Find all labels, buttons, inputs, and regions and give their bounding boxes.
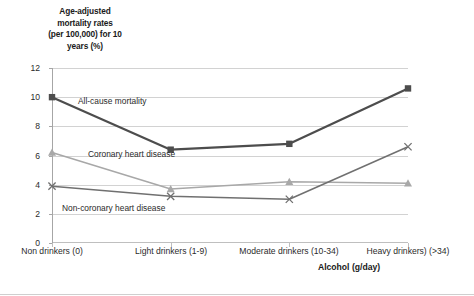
x-axis-tick-labels: Non drinkers (0) Light drinkers (1-9) Mo… (0, 246, 474, 260)
y-tick-label-6: 6 (35, 151, 40, 161)
annotation-coronary-heart-disease: Coronary heart disease (88, 149, 175, 159)
y-axis-title-line-3: (per 100,000) for 10 (10, 29, 160, 41)
x-tick-label-heavy-drinkers: Heavy drinkers) (>34) (367, 246, 450, 256)
y-axis-title: Age-adjusted mortality rates (per 100,00… (10, 6, 160, 52)
x-tick-label-non-drinkers: Non drinkers (0) (21, 246, 83, 256)
y-axis-title-line-4: years (%) (10, 41, 160, 53)
y-axis-tick-labels: 12 10 8 6 4 2 0 (0, 68, 48, 243)
mortality-alcohol-line-chart: Age-adjusted mortality rates (per 100,00… (0, 0, 474, 296)
x-axis-title: Alcohol (g/day) (318, 262, 380, 272)
marker-square (405, 85, 411, 91)
marker-triangle (48, 149, 56, 156)
marker-square (49, 94, 55, 100)
y-axis-title-line-2: mortality rates (10, 18, 160, 30)
x-tick-label-moderate-drinkers: Moderate drinkers (10-34) (239, 246, 338, 256)
marker-x (404, 143, 411, 150)
y-tick-label-10: 10 (30, 92, 40, 102)
annotation-all-cause-mortality: All-cause mortality (78, 96, 146, 106)
x-tick-label-light-drinkers: Light drinkers (1-9) (135, 246, 207, 256)
y-tick-label-4: 4 (35, 180, 40, 190)
y-axis-title-line-1: Age-adjusted (10, 6, 160, 18)
y-tick-label-8: 8 (35, 121, 40, 131)
y-tick-label-2: 2 (35, 209, 40, 219)
y-tick-label-12: 12 (30, 63, 40, 73)
annotation-non-coronary-heart-disease: Non-coronary heart disease (62, 203, 165, 213)
marker-square (286, 141, 292, 147)
page-bottom-rule (0, 294, 474, 295)
